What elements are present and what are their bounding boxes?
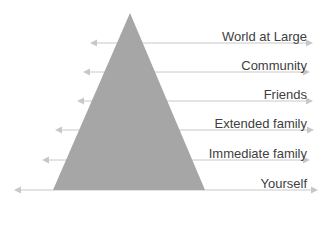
arrowhead-left-icon xyxy=(42,157,49,164)
arrowhead-right-icon xyxy=(306,40,313,47)
arrowhead-right-icon xyxy=(311,187,318,194)
label-world-at-large: World at Large xyxy=(222,30,307,44)
arrowhead-left-icon xyxy=(83,69,90,76)
arrowhead-left-icon xyxy=(90,40,97,47)
label-yourself: Yourself xyxy=(261,177,308,191)
label-friends: Friends xyxy=(264,88,307,102)
arrowhead-left-icon xyxy=(77,98,84,105)
arrowhead-left-icon xyxy=(14,187,21,194)
label-community: Community xyxy=(241,59,307,73)
arrowhead-left-icon xyxy=(55,127,62,134)
arrowhead-right-icon xyxy=(306,98,313,105)
arrowhead-right-icon xyxy=(307,127,314,134)
label-extended-family: Extended family xyxy=(215,117,308,131)
label-immediate-family: Immediate family xyxy=(209,147,307,161)
